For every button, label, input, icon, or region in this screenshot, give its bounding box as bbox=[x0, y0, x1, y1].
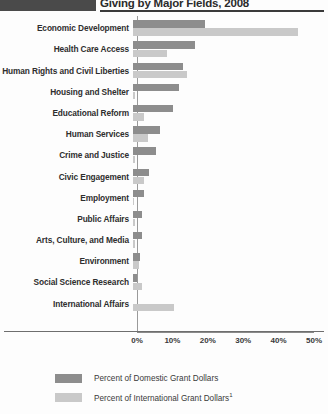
bar-row: International Affairs bbox=[0, 293, 328, 314]
bar-row: Civic Engagement bbox=[0, 166, 328, 187]
category-label: International Affairs bbox=[0, 300, 133, 309]
x-tick-label: 40% bbox=[271, 336, 287, 345]
bar-international bbox=[133, 198, 134, 205]
footer-divider bbox=[4, 331, 324, 332]
bar-row: Public Affairs bbox=[0, 209, 328, 230]
x-axis-ticks: 0%10%20%30%40%50% bbox=[137, 336, 314, 350]
bar-international bbox=[133, 283, 142, 290]
category-label: Educational Reform bbox=[0, 109, 133, 118]
bar-domestic bbox=[133, 63, 183, 70]
bar-row: Human Services bbox=[0, 124, 328, 145]
x-tick-label: 0% bbox=[131, 336, 143, 345]
category-label: Environment bbox=[0, 257, 133, 266]
bar-track bbox=[133, 39, 328, 60]
bar-track bbox=[133, 166, 328, 187]
legend-footnote-marker: 1 bbox=[229, 392, 232, 398]
x-tick-label: 10% bbox=[164, 336, 180, 345]
bar-domestic bbox=[133, 41, 195, 48]
bar-domestic bbox=[133, 20, 205, 27]
bar-row: Educational Reform bbox=[0, 103, 328, 124]
bar-row: Economic Development bbox=[0, 18, 328, 39]
bar-row: Arts, Culture, and Media bbox=[0, 230, 328, 251]
legend-label: Percent of International Grant Dollars1 bbox=[94, 392, 233, 403]
category-label: Civic Engagement bbox=[0, 173, 133, 182]
bar-international bbox=[133, 304, 174, 311]
bar-international bbox=[133, 261, 139, 268]
bar-row: Employment bbox=[0, 188, 328, 209]
chart-container: Giving by Major Fields, 2008 Economic De… bbox=[0, 0, 328, 414]
bar-international bbox=[133, 71, 187, 78]
legend-item: Percent of Domestic Grant Dollars bbox=[55, 369, 328, 388]
bar-row: Crime and Justice bbox=[0, 145, 328, 166]
bar-track bbox=[133, 188, 328, 209]
header-swatch bbox=[0, 0, 96, 11]
x-tick-label: 20% bbox=[200, 336, 216, 345]
bar-international bbox=[133, 177, 144, 184]
category-label: Public Affairs bbox=[0, 215, 133, 224]
bar-international bbox=[133, 156, 135, 163]
x-axis-line bbox=[137, 332, 314, 333]
bar-domestic bbox=[133, 190, 144, 197]
bar-track bbox=[133, 60, 328, 81]
bar-international bbox=[133, 240, 135, 247]
bar-track bbox=[133, 124, 328, 145]
category-label: Human Services bbox=[0, 130, 133, 139]
category-label: Economic Development bbox=[0, 24, 133, 33]
bar-track bbox=[133, 18, 328, 39]
bar-domestic bbox=[133, 253, 140, 260]
bar-domestic bbox=[133, 211, 142, 218]
x-tick-label: 50% bbox=[306, 336, 322, 345]
category-label: Housing and Shelter bbox=[0, 88, 133, 97]
bar-international bbox=[133, 219, 135, 226]
bar-domestic bbox=[133, 274, 137, 281]
bar-international bbox=[133, 92, 135, 99]
bar-international bbox=[133, 134, 148, 141]
bar-track bbox=[133, 103, 328, 124]
chart-header: Giving by Major Fields, 2008 bbox=[0, 0, 328, 13]
bar-track bbox=[133, 209, 328, 230]
category-label: Crime and Justice bbox=[0, 151, 133, 160]
x-tick-label: 30% bbox=[235, 336, 251, 345]
bar-domestic bbox=[133, 105, 173, 112]
bar-international bbox=[133, 113, 144, 120]
bar-domestic bbox=[133, 169, 149, 176]
bar-rows: Economic DevelopmentHealth Care AccessHu… bbox=[0, 18, 328, 315]
legend-swatch-domestic bbox=[55, 374, 82, 383]
bar-row: Environment bbox=[0, 251, 328, 272]
bar-domestic bbox=[133, 126, 160, 133]
bar-track bbox=[133, 293, 328, 314]
title-divider bbox=[100, 10, 324, 12]
plot-area: Economic DevelopmentHealth Care AccessHu… bbox=[0, 14, 328, 336]
chart-legend: Percent of Domestic Grant DollarsPercent… bbox=[0, 369, 328, 407]
bar-domestic bbox=[133, 232, 142, 239]
category-label: Health Care Access bbox=[0, 45, 133, 54]
bar-row: Human Rights and Civil Liberties bbox=[0, 60, 328, 81]
bar-row: Health Care Access bbox=[0, 39, 328, 60]
category-label: Employment bbox=[0, 194, 133, 203]
bar-domestic bbox=[133, 147, 156, 154]
bar-row: Social Science Research bbox=[0, 272, 328, 293]
bar-track bbox=[133, 82, 328, 103]
legend-swatch-international bbox=[55, 393, 82, 402]
bar-track bbox=[133, 272, 328, 293]
legend-label: Percent of Domestic Grant Dollars bbox=[94, 374, 218, 383]
category-label: Arts, Culture, and Media bbox=[0, 236, 133, 245]
bar-international bbox=[133, 50, 167, 57]
bar-domestic bbox=[133, 84, 179, 91]
bar-track bbox=[133, 230, 328, 251]
category-label: Social Science Research bbox=[0, 278, 133, 287]
bar-track bbox=[133, 145, 328, 166]
bar-row: Housing and Shelter bbox=[0, 82, 328, 103]
category-label: Human Rights and Civil Liberties bbox=[0, 67, 133, 76]
bar-international bbox=[133, 28, 298, 35]
bar-track bbox=[133, 251, 328, 272]
page-title: Giving by Major Fields, 2008 bbox=[100, 0, 249, 9]
legend-item: Percent of International Grant Dollars1 bbox=[55, 388, 328, 407]
